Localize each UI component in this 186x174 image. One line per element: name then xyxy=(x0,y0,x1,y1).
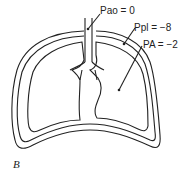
right-lung xyxy=(90,42,148,131)
ppl-label: Ppl = −8 xyxy=(134,22,171,33)
figure-label: B xyxy=(13,158,20,170)
pa-point xyxy=(118,89,121,92)
bronchus-branch-left xyxy=(80,70,82,80)
pao-leader xyxy=(88,14,100,29)
pao-point xyxy=(87,28,90,31)
right-bronchus xyxy=(92,62,104,70)
chest-wall-outer xyxy=(12,31,160,148)
pa-leader xyxy=(119,46,142,90)
chest-wall-inner xyxy=(17,36,155,142)
lung-pressure-diagram: Pao = 0 Ppl = −8 PA = −2 B xyxy=(0,0,186,174)
left-bronchus xyxy=(70,62,85,70)
pao-label: Pao = 0 xyxy=(100,5,135,16)
pa-label: PA = −2 xyxy=(143,39,178,50)
ppl-point xyxy=(123,43,126,46)
left-lung xyxy=(28,42,84,132)
